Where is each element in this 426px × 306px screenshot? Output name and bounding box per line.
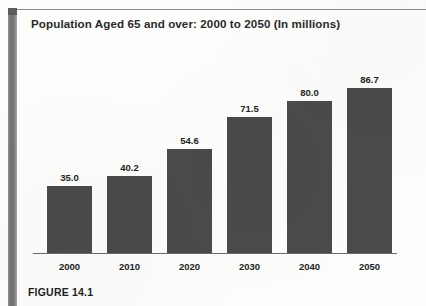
bar-value-label-2030: 71.5 [215,103,284,114]
bar-2040 [287,101,332,253]
bar-value-label-2040: 80.0 [275,87,344,98]
x-axis-tick-label-2010: 2010 [95,261,164,272]
figure-page: Population Aged 65 and over: 2000 to 205… [0,0,426,306]
bar-2050 [347,88,392,253]
x-axis-tick-label-2040: 2040 [275,261,344,272]
bar-value-label-2000: 35.0 [35,172,104,183]
x-axis-line [33,253,397,254]
x-axis-tick-label-2020: 2020 [155,261,224,272]
bar-2010 [107,176,152,253]
x-axis-tick-label-2050: 2050 [335,261,404,272]
x-axis-tick-label-2000: 2000 [35,261,104,272]
bar-value-label-2010: 40.2 [95,162,164,173]
x-axis-tick-label-2030: 2030 [215,261,284,272]
bar-2000 [47,186,92,253]
bar-2030 [227,117,272,253]
bar-chart-plot-area: 35.0200040.2201054.6202071.5203080.02040… [0,0,426,306]
bar-value-label-2050: 86.7 [335,74,404,85]
figure-caption: FIGURE 14.1 [28,286,93,298]
bar-2020 [167,149,212,253]
bar-value-label-2020: 54.6 [155,135,224,146]
